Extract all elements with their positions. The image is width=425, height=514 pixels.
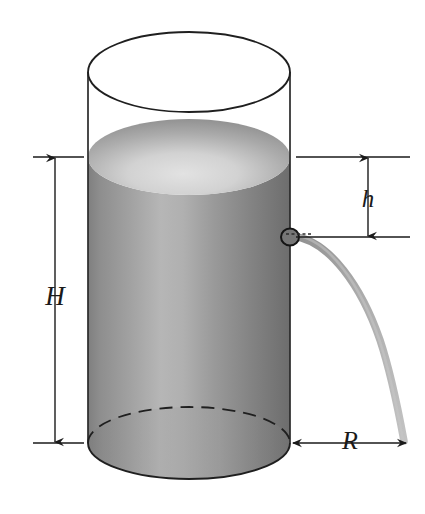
cylindrical-tank bbox=[88, 32, 290, 479]
water-jet-stream bbox=[292, 236, 404, 441]
dimension-label-R: R bbox=[330, 428, 370, 454]
dimension-label-H: H bbox=[33, 283, 77, 310]
water-jet-highlight bbox=[294, 235, 403, 440]
liquid-surface bbox=[88, 119, 290, 195]
dimension-label-h: h bbox=[348, 186, 388, 211]
tank-top-rim bbox=[88, 32, 290, 112]
water-jet bbox=[292, 235, 404, 441]
physics-figure: H h R bbox=[0, 0, 425, 514]
